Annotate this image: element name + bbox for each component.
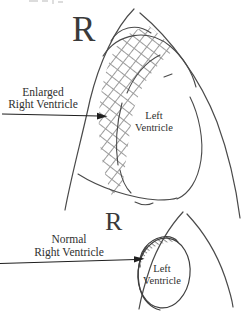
normal-rv-label-line2: Right Ventricle [14,246,124,259]
left-ventricle-label-top-line2: Ventricle [128,122,180,134]
enlarged-rv-label-line2: Right Ventricle [0,98,86,110]
left-ventricle-label-bottom-line2: Ventricle [134,275,190,287]
heart-outer-wall-bottom [139,212,233,309]
normal-rv-label: Normal Right Ventricle [14,233,124,259]
heart-diagram-art [0,0,249,316]
orientation-marker-top: R [72,12,95,47]
left-ventricle-label-bottom-line1: Left [134,263,190,275]
left-ventricle-label-top: Left Ventricle [128,110,180,134]
left-ventricle-label-top-line1: Left [128,110,180,122]
clipped-text-fragment [29,0,63,4]
figure-canvas: R Enlarged Right Ventricle Left Ventricl… [0,0,249,316]
enlarged-rv-arrow [2,113,108,120]
enlarged-rv-label: Enlarged Right Ventricle [0,86,86,110]
left-ventricle-label-bottom: Left Ventricle [134,263,190,287]
normal-rv-label-line1: Normal [14,233,124,246]
orientation-marker-bottom: R [105,209,122,235]
enlarged-rv-label-line1: Enlarged [0,86,86,98]
